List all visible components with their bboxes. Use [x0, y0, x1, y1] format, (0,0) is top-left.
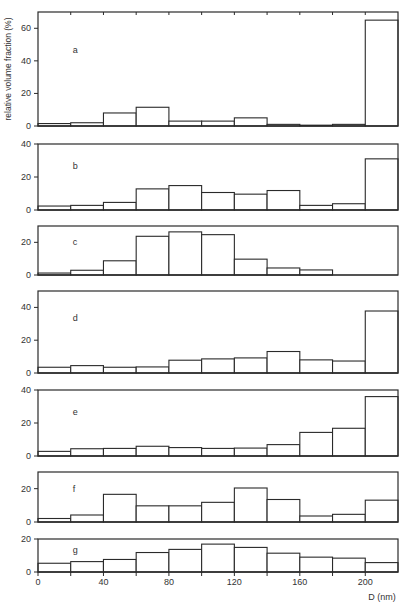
y-tick-label: 20	[21, 335, 31, 345]
bar-f-160-180	[300, 516, 333, 522]
x-tick-label: 80	[164, 577, 174, 587]
bar-c-60-80	[136, 236, 169, 275]
y-tick-label: 40	[21, 302, 31, 312]
bar-b-180-200	[333, 204, 366, 210]
panel-label: f	[73, 484, 76, 494]
bar-a-200-220	[365, 20, 398, 126]
y-tick-label: 40	[21, 56, 31, 66]
bar-e-60-80	[136, 446, 169, 456]
panel-label: b	[73, 161, 78, 171]
bar-f-140-160	[267, 500, 300, 523]
bar-g-60-80	[136, 553, 169, 572]
bar-c-100-120	[202, 235, 235, 275]
bar-g-100-120	[202, 544, 235, 572]
x-axis-title: D (nm)	[368, 592, 396, 602]
y-tick-label: 20	[21, 534, 31, 544]
panels-group: 0204060a02040b020c02040d02040e020f020g	[21, 12, 398, 577]
bar-e-160-180	[300, 432, 333, 456]
bar-g-120-140	[234, 547, 267, 572]
bar-b-20-40	[71, 205, 104, 210]
bar-d-180-200	[333, 361, 366, 373]
bar-b-100-120	[202, 193, 235, 210]
x-axis-tick-labels: 04080120160200	[35, 577, 372, 587]
bar-d-140-160	[267, 352, 300, 373]
bar-e-80-100	[169, 448, 202, 456]
y-tick-label: 0	[26, 451, 31, 461]
histogram-figure: 0204060a02040b020c02040d02040e020f020g r…	[0, 0, 409, 608]
bar-e-200-220	[365, 397, 398, 456]
panel-a: 0204060a	[21, 12, 398, 131]
x-tick-label: 120	[227, 577, 242, 587]
bar-b-140-160	[267, 191, 300, 210]
panel-label: e	[73, 407, 78, 417]
x-tick-label: 0	[35, 577, 40, 587]
bar-e-180-200	[333, 428, 366, 456]
y-tick-label: 0	[26, 205, 31, 215]
bar-d-160-180	[300, 360, 333, 373]
y-tick-label: 20	[21, 484, 31, 494]
bar-f-120-140	[234, 488, 267, 522]
bar-a-60-80	[136, 107, 169, 126]
bar-f-20-40	[71, 515, 104, 522]
panel-d: 02040d	[21, 291, 398, 378]
bar-c-140-160	[267, 268, 300, 275]
bar-a-100-120	[202, 121, 235, 126]
bar-a-80-100	[169, 121, 202, 126]
bar-d-200-220	[365, 311, 398, 373]
bar-f-80-100	[169, 506, 202, 522]
bar-a-120-140	[234, 118, 267, 126]
bar-c-20-40	[71, 270, 104, 275]
y-tick-label: 60	[21, 23, 31, 33]
bar-b-160-180	[300, 205, 333, 210]
bar-f-60-80	[136, 506, 169, 522]
bar-d-120-140	[234, 358, 267, 373]
bar-e-40-60	[103, 448, 136, 456]
bar-a-40-60	[103, 113, 136, 126]
panel-e: 02040e	[21, 385, 398, 461]
bar-d-60-80	[136, 367, 169, 373]
bar-e-20-40	[71, 449, 104, 456]
y-tick-label: 0	[26, 368, 31, 378]
bar-g-80-100	[169, 549, 202, 572]
bar-g-200-220	[365, 563, 398, 572]
x-tick-label: 160	[292, 577, 307, 587]
bar-e-0-20	[38, 451, 71, 456]
y-tick-label: 0	[26, 517, 31, 527]
bar-b-200-220	[365, 159, 398, 210]
panel-c: 020c	[21, 226, 398, 280]
bar-g-160-180	[300, 557, 333, 572]
y-axis-title: relative volume fraction (%)	[3, 17, 13, 120]
bar-f-200-220	[365, 500, 398, 522]
y-tick-label: 0	[26, 567, 31, 577]
panel-g: 020g	[21, 534, 398, 577]
panel-b: 02040b	[21, 139, 398, 215]
bar-b-120-140	[234, 194, 267, 210]
bar-b-80-100	[169, 186, 202, 210]
y-tick-label: 20	[21, 418, 31, 428]
bar-g-140-160	[267, 553, 300, 572]
bar-f-40-60	[103, 494, 136, 522]
panel-label: g	[73, 545, 78, 555]
x-tick-label: 200	[358, 577, 373, 587]
stacked-histogram-chart: 0204060a02040b020c02040d02040e020f020g r…	[0, 0, 409, 608]
bar-b-60-80	[136, 189, 169, 210]
bar-g-0-20	[38, 563, 71, 572]
bar-c-80-100	[169, 232, 202, 275]
bar-d-80-100	[169, 360, 202, 373]
bar-d-40-60	[103, 367, 136, 373]
bar-f-100-120	[202, 502, 235, 522]
panel-f: 020f	[21, 472, 398, 527]
y-tick-label: 20	[21, 237, 31, 247]
y-tick-label: 0	[26, 270, 31, 280]
panel-label: c	[73, 237, 78, 247]
bar-e-140-160	[267, 445, 300, 456]
y-tick-label: 0	[26, 121, 31, 131]
panel-label: a	[73, 45, 78, 55]
bar-c-120-140	[234, 259, 267, 275]
bar-b-40-60	[103, 202, 136, 210]
y-tick-label: 40	[21, 139, 31, 149]
bar-c-40-60	[103, 261, 136, 275]
y-tick-label: 20	[21, 88, 31, 98]
panel-label: d	[73, 313, 78, 323]
bar-e-100-120	[202, 448, 235, 456]
